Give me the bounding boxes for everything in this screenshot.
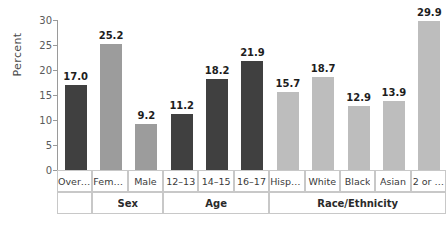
group-header-cell: Age <box>163 192 269 214</box>
bar-value-label: 18.7 <box>311 64 336 74</box>
plot-area: 051015202530 17.025.29.211.218.221.915.7… <box>57 20 446 170</box>
bar <box>312 77 334 171</box>
bar-slot: 18.2 <box>199 20 234 170</box>
category-cell: Black <box>340 170 375 192</box>
category-cell-label: Male <box>134 176 157 187</box>
y-tick-mark <box>53 45 57 46</box>
bar-value-label: 21.9 <box>240 48 265 58</box>
bar-slot: 29.9 <box>412 20 446 170</box>
bar <box>206 79 228 170</box>
category-cell: 12–13 <box>163 170 198 192</box>
bar-slot: 13.9 <box>376 20 411 170</box>
bar-value-label: 11.2 <box>169 101 194 111</box>
category-label-row: OverallFemaleMale12–1314–1516–17Hispa…Wh… <box>57 170 446 192</box>
group-header-label: Age <box>205 198 227 209</box>
bar-slot: 12.9 <box>341 20 376 170</box>
bar-slot: 17.0 <box>58 20 93 170</box>
group-header-cell: Race/Ethnicity <box>269 192 446 214</box>
category-cell: Asian <box>375 170 410 192</box>
bar <box>241 61 263 171</box>
bar-value-label: 17.0 <box>63 72 88 82</box>
group-header-cell <box>57 192 92 214</box>
bar-value-label: 18.2 <box>205 66 230 76</box>
category-cell-label: Asian <box>380 176 406 187</box>
bar-value-label: 15.7 <box>276 79 301 89</box>
category-cell-label: 2 or … <box>413 176 444 187</box>
bar <box>348 106 370 171</box>
bar-value-label: 12.9 <box>346 93 371 103</box>
category-cell-label: Hispa… <box>270 176 303 187</box>
y-tick-mark <box>53 95 57 96</box>
y-tick-label: 10 <box>2 116 52 126</box>
bar-slot: 11.2 <box>164 20 199 170</box>
bar-slot: 21.9 <box>235 20 270 170</box>
bar-slot: 15.7 <box>270 20 305 170</box>
y-tick-label: 25 <box>2 41 52 51</box>
category-cell: 14–15 <box>198 170 233 192</box>
category-cell: 16–17 <box>234 170 269 192</box>
category-table: OverallFemaleMale12–1314–1516–17Hispa…Wh… <box>57 170 446 214</box>
bar-chart: Percent 051015202530 17.025.29.211.218.2… <box>0 0 446 227</box>
category-cell: Hispa… <box>269 170 304 192</box>
bar-slot: 9.2 <box>129 20 164 170</box>
category-cell-label: 14–15 <box>202 176 231 187</box>
category-cell: White <box>305 170 340 192</box>
bar <box>100 44 122 170</box>
y-tick-mark <box>53 120 57 121</box>
bar-value-label: 25.2 <box>99 31 124 41</box>
category-cell-label: 16–17 <box>237 176 266 187</box>
y-tick-mark <box>53 145 57 146</box>
y-tick-label: 5 <box>2 141 52 151</box>
bar-value-label: 13.9 <box>382 88 407 98</box>
category-cell-label: Black <box>345 176 371 187</box>
category-cell-label: White <box>308 176 336 187</box>
category-cell: Female <box>92 170 127 192</box>
bar-slot: 18.7 <box>306 20 341 170</box>
category-cell-label: Overall <box>58 176 91 187</box>
y-tick-label: 0 <box>2 166 52 176</box>
bar <box>135 124 157 170</box>
bar <box>65 85 87 170</box>
group-header-label: Race/Ethnicity <box>317 198 398 209</box>
y-tick-label: 15 <box>2 91 52 101</box>
y-tick-mark <box>53 70 57 71</box>
category-cell-label: 12–13 <box>166 176 195 187</box>
group-header-cell: Sex <box>92 192 163 214</box>
bar <box>418 21 440 171</box>
y-tick-label: 30 <box>2 16 52 26</box>
bar-value-label: 9.2 <box>138 111 156 121</box>
group-header-label: Sex <box>118 198 138 209</box>
bar <box>171 114 193 170</box>
y-tick-mark <box>53 20 57 21</box>
bar-value-label: 29.9 <box>417 8 442 18</box>
category-group-row: SexAgeRace/Ethnicity <box>57 192 446 214</box>
bars-layer: 17.025.29.211.218.221.915.718.712.913.92… <box>58 20 446 170</box>
bar-slot: 25.2 <box>93 20 128 170</box>
category-cell: 2 or … <box>411 170 446 192</box>
y-tick-label: 20 <box>2 66 52 76</box>
bar <box>383 101 405 171</box>
bar <box>277 92 299 171</box>
category-cell: Male <box>128 170 163 192</box>
category-cell: Overall <box>57 170 92 192</box>
category-cell-label: Female <box>93 176 126 187</box>
